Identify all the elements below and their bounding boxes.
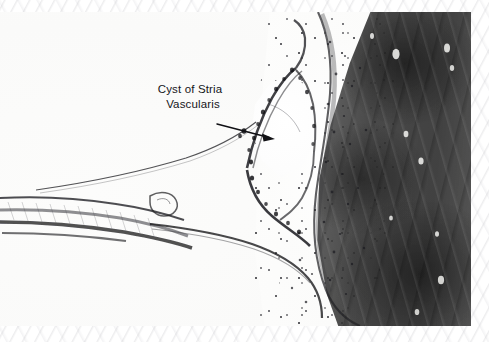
micrograph-plate [0,12,471,326]
annotation-line-2: Vascularis [138,97,242,112]
annotation-label-cyst-of-stria-vascularis: Cyst of Stria Vascularis [138,82,242,111]
annotation-line-1: Cyst of Stria [158,83,223,95]
figure-root: Cyst of Stria Vascularis [0,0,489,342]
